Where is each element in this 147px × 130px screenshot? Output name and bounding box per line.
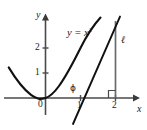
y-tick-label-2: 2 bbox=[35, 43, 40, 53]
x-tick-label-2: 2 bbox=[112, 101, 117, 111]
parabola-tangent-figure bbox=[0, 0, 147, 130]
tangent-line-label: ℓ bbox=[121, 35, 125, 45]
y-tick-label-1: 1 bbox=[35, 68, 40, 78]
function-label: y = x2 bbox=[67, 28, 92, 39]
x-axis-label: x bbox=[137, 104, 141, 114]
function-label-exponent: 2 bbox=[89, 26, 93, 34]
origin-label: 0 bbox=[38, 100, 43, 110]
y-axis-label: y bbox=[36, 10, 40, 20]
function-label-base: y = x bbox=[67, 27, 89, 38]
x-axis-arrow-icon bbox=[133, 94, 140, 101]
angle-phi-label: ϕ bbox=[70, 84, 76, 93]
x-tick-label-1: 1 bbox=[77, 101, 82, 111]
y-axis-arrow-icon bbox=[42, 14, 49, 21]
right-angle-marker-icon bbox=[109, 91, 116, 99]
figure-container: y x 2 1 0 1 2 y = x2 ℓ ϕ bbox=[0, 0, 147, 130]
